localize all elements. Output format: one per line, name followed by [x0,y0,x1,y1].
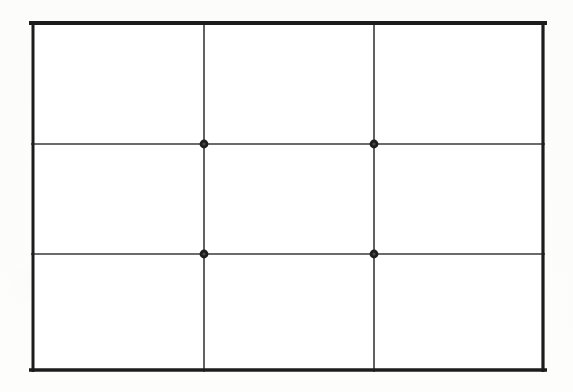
rule-of-thirds-diagram [0,0,573,392]
intersection-point-bottom-left-third [200,250,209,259]
point-dot-inner [202,252,205,255]
figure-canvas [0,0,573,392]
point-dot-inner [372,252,375,255]
intersection-point-bottom-right-third [370,250,379,259]
intersection-point-top-left-third [200,140,209,149]
point-dot-inner [372,142,375,145]
frame-fill [31,21,545,372]
intersection-point-top-right-third [370,140,379,149]
point-dot-inner [202,142,205,145]
